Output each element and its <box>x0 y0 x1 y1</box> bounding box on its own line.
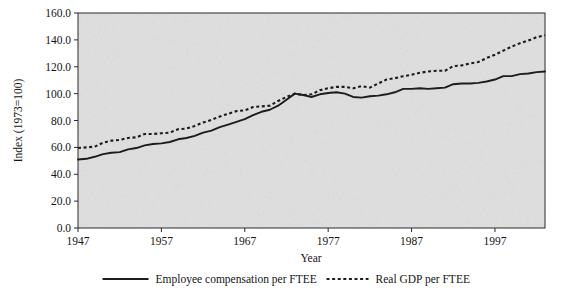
y-tick-label: 160.0 <box>45 7 71 19</box>
y-axis-title: Index (1973=100) <box>12 79 25 163</box>
x-tick-label: 1977 <box>317 235 340 247</box>
x-axis-tick-labels: 194719571967197719871997 <box>67 235 507 247</box>
legend-label-2: Real GDP per FTEE <box>376 273 470 286</box>
chart-legend: Employee compensation per FTEEReal GDP p… <box>103 273 470 286</box>
y-axis-tick-labels: 0.020.040.060.080.0100.0120.0140.0160.0 <box>45 7 71 234</box>
y-axis-ticks <box>74 13 78 228</box>
x-axis-ticks <box>78 228 495 232</box>
y-tick-label: 80.0 <box>51 115 71 127</box>
x-axis-title: Year <box>300 252 321 264</box>
x-tick-label: 1957 <box>150 235 173 247</box>
x-tick-label: 1987 <box>400 235 423 247</box>
y-tick-label: 140.0 <box>45 34 71 46</box>
line-chart: 0.020.040.060.080.0100.0120.0140.0160.0 … <box>0 0 567 296</box>
legend-label-1: Employee compensation per FTEE <box>156 273 317 286</box>
y-tick-label: 60.0 <box>51 141 71 153</box>
x-tick-label: 1967 <box>233 235 256 247</box>
y-tick-label: 100.0 <box>45 88 71 100</box>
y-tick-label: 0.0 <box>57 222 72 234</box>
x-tick-label: 1997 <box>483 235 506 247</box>
y-tick-label: 120.0 <box>45 61 71 73</box>
x-tick-label: 1947 <box>67 235 90 247</box>
y-tick-label: 20.0 <box>51 195 71 207</box>
chart-figure: 0.020.040.060.080.0100.0120.0140.0160.0 … <box>0 0 567 296</box>
y-tick-label: 40.0 <box>51 168 71 180</box>
